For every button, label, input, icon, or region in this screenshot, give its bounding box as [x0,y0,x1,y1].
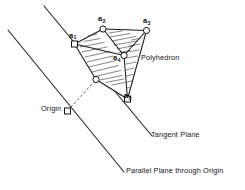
origin-connector-dashed [68,80,97,112]
vertex-label-a2: a2 [98,15,105,23]
polyhedron-label: Polyhedron [141,54,179,61]
vertex-marker-a2[interactable] [100,26,106,32]
vertex-label-a5: a5 [124,92,131,100]
vertex-label-a4: a4 [113,54,120,62]
vertex-marker-a4[interactable] [121,52,127,58]
origin-marker[interactable] [65,108,71,114]
polyhedron-diagram [0,0,245,190]
parallel-plane-label: Parallel Plane through Origin [126,167,223,174]
vertex-marker-a1[interactable] [72,41,78,47]
vertex-label-a1: a1 [69,32,76,40]
vertex-marker-a3[interactable] [143,27,149,33]
tangent-plane-label: Tangent Plane [151,131,200,138]
vertex-label-a3: a3 [143,17,150,25]
origin-label: Origin [41,105,61,112]
vertex-marker-a6[interactable] [93,76,99,82]
figure-canvas: a1 a2 a3 a4 a5 Polyhedron Origin Tangent… [0,0,245,190]
